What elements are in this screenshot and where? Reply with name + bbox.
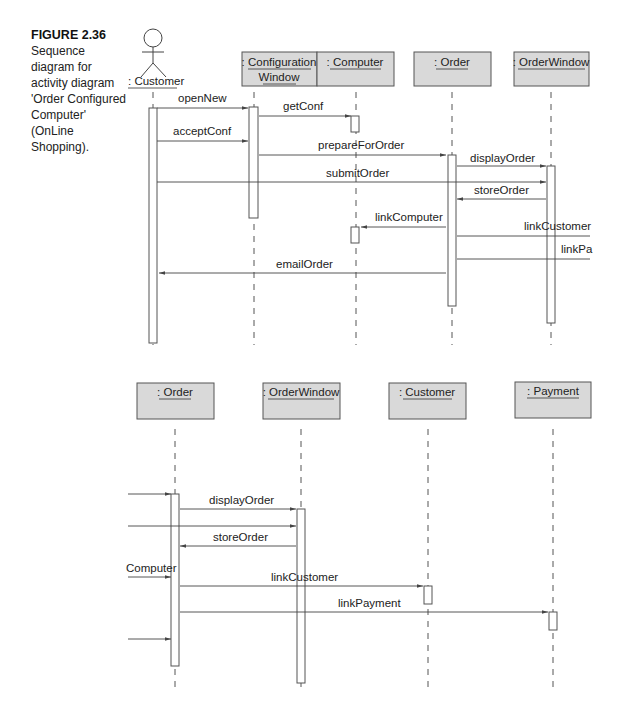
top-sequence-diagram: : Customer : Configuration Window : Comp…: [128, 29, 593, 345]
activation-customer-2: [424, 586, 432, 604]
bottom-sequence-diagram: : Order : OrderWindow : Customer : Payme…: [126, 382, 591, 690]
message-label: storeOrder: [213, 531, 268, 543]
activation-computer-1: [351, 116, 359, 132]
svg-text:: OrderWindow: : OrderWindow: [263, 386, 340, 398]
object-order: : Order: [414, 52, 491, 86]
message-label: linkCustomer: [524, 220, 591, 232]
stick-figure-icon: [141, 29, 166, 77]
svg-text:: Configuration: : Configuration: [242, 56, 317, 68]
activation-customer: [149, 108, 157, 343]
svg-text:: OrderWindow: : OrderWindow: [513, 56, 590, 68]
customer-actor: : Customer: [128, 29, 184, 88]
message-label: prepareForOrder: [318, 139, 404, 151]
activation-order-window-2: [297, 509, 305, 683]
message-label: emailOrder: [276, 258, 333, 270]
message-label: linkPa: [561, 243, 593, 255]
message-label: linkComputer: [375, 211, 443, 223]
activation-payment: [549, 612, 557, 630]
object-order-window: : OrderWindow: [513, 52, 590, 86]
activation-configuration-window: [249, 107, 258, 218]
message-label: acceptConf: [173, 125, 232, 137]
svg-text:: Customer: : Customer: [399, 386, 455, 398]
activation-order-2: [171, 494, 179, 666]
svg-text:: Computer: : Computer: [327, 56, 384, 68]
message-label: submitOrder: [326, 167, 389, 179]
svg-text:: Order: : Order: [434, 56, 470, 68]
message-label: openNew: [178, 92, 227, 104]
activation-order-window: [547, 166, 555, 323]
activation-order: [448, 155, 456, 306]
svg-text:: Order: : Order: [157, 386, 193, 398]
object-configuration-window: : Configuration Window: [242, 52, 317, 86]
message-label: linkCustomer: [271, 571, 338, 583]
activation-computer-2: [351, 227, 359, 243]
message-label: linkPayment: [338, 597, 401, 609]
sequence-diagram: : Customer : Configuration Window : Comp…: [0, 0, 617, 711]
svg-text:: Payment: : Payment: [527, 385, 580, 397]
object-order-window-2: : OrderWindow: [263, 383, 340, 419]
message-label: storeOrder: [474, 184, 529, 196]
object-customer: : Customer: [389, 383, 466, 419]
top-messages: openNewgetConfacceptConfprepareForOrderd…: [157, 92, 593, 273]
object-order-2: : Order: [137, 383, 214, 419]
message-label: displayOrder: [209, 494, 274, 506]
message-label: getConf: [283, 100, 324, 112]
bottom-messages: displayOrderstoreOrderlinkCustomerlinkPa…: [128, 494, 548, 639]
computer-fragment-label: Computer: [126, 562, 177, 574]
message-label: displayOrder: [470, 152, 535, 164]
actor-label: : Customer: [128, 75, 184, 87]
svg-text:Window: Window: [259, 71, 301, 83]
object-computer: : Computer: [317, 52, 394, 86]
object-payment: : Payment: [515, 382, 591, 418]
